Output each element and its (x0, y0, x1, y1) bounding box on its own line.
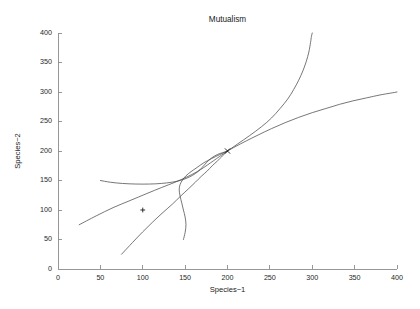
y-tick-label: 0 (48, 264, 52, 273)
y-tick-label: 250 (40, 116, 52, 125)
chart-figure: 0501001502002503003504000501001502002503… (0, 0, 420, 309)
x-tick-label: 250 (264, 273, 276, 282)
y-axis-title: Species−2 (13, 133, 22, 169)
x-tick-label: 100 (137, 273, 149, 282)
y-tick-label: 50 (44, 234, 52, 243)
plot-background (0, 0, 420, 309)
y-tick-label: 200 (40, 146, 52, 155)
x-tick-label: 350 (349, 273, 361, 282)
x-tick-label: 0 (56, 273, 60, 282)
y-tick-label: 400 (40, 28, 52, 37)
x-tick-label: 150 (179, 273, 191, 282)
phase-plane-plot: 0501001502002503003504000501001502002503… (0, 0, 420, 309)
x-tick-label: 200 (222, 273, 234, 282)
plot-title: Mutualism (209, 15, 246, 24)
x-tick-label: 50 (96, 273, 104, 282)
x-tick-label: 300 (306, 273, 318, 282)
x-tick-label: 400 (391, 273, 403, 282)
x-axis-title: Species−1 (210, 285, 246, 294)
y-tick-label: 350 (40, 57, 52, 66)
y-tick-label: 100 (40, 205, 52, 214)
y-tick-label: 150 (40, 175, 52, 184)
y-tick-label: 300 (40, 87, 52, 96)
